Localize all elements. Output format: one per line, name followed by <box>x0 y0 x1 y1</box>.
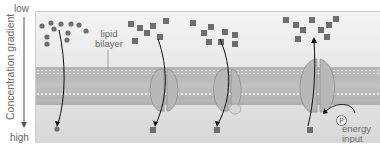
membrane-diagram: lipid bilayer P energy input <box>35 11 380 143</box>
bound-molecule <box>229 104 241 114</box>
lipid-bilayer-label: lipid bilayer <box>91 29 127 49</box>
energy-input-label: energy input <box>342 124 378 143</box>
pump-protein <box>300 59 335 112</box>
membrane-illustration <box>36 12 380 143</box>
gradient-arrow <box>0 0 35 145</box>
channel-protein-1 <box>150 69 178 111</box>
carrier-protein <box>214 69 241 114</box>
